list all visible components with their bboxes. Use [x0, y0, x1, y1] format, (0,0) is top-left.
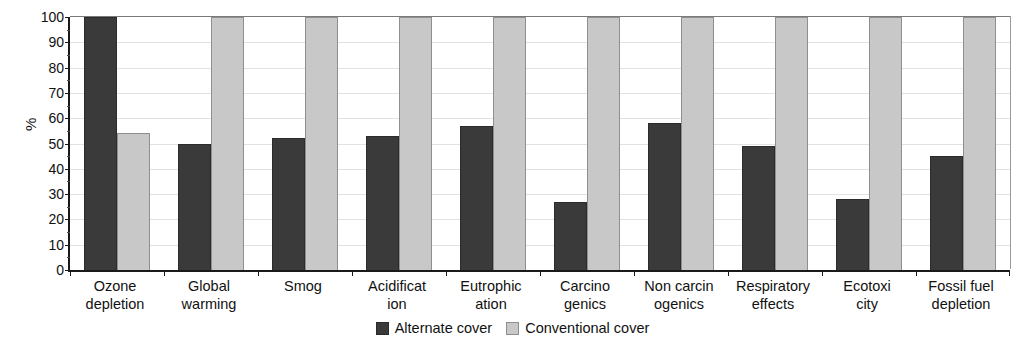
x-tick-mark: [164, 271, 165, 276]
y-minor-tick-mark: [67, 131, 70, 132]
bar-group: [352, 17, 446, 270]
x-tick-label-line1: Ozone: [94, 278, 137, 294]
x-tick-label-line1: Smog: [284, 278, 322, 294]
y-minor-tick-mark: [67, 80, 70, 81]
y-tick-mark: [65, 17, 70, 18]
legend-label: Alternate cover: [395, 320, 493, 336]
x-tick-label-line1: Non carcin: [644, 278, 713, 294]
bar: [587, 17, 620, 270]
y-minor-tick-mark: [67, 257, 70, 258]
y-minor-tick-mark: [67, 232, 70, 233]
bar-chart: % 0102030405060708090100 OzonedepletionG…: [0, 0, 1025, 344]
bar: [836, 199, 869, 270]
y-tick-label: 0: [6, 263, 64, 277]
y-minor-tick-mark: [67, 106, 70, 107]
plot-frame-right: [1010, 16, 1011, 269]
y-tick-mark: [65, 219, 70, 220]
bar: [178, 144, 211, 271]
y-tick-mark: [65, 68, 70, 69]
x-tick-label: Carcinogenics: [538, 277, 632, 313]
x-tick-label-line2: ion: [350, 295, 444, 313]
y-tick-mark: [65, 270, 70, 271]
x-tick-label-line1: Eutrophic: [460, 278, 521, 294]
x-tick-label-line1: Carcino: [560, 278, 610, 294]
x-tick-label-line2: genics: [538, 295, 632, 313]
bar-group: [446, 17, 540, 270]
x-tick-label-line1: Global: [188, 278, 230, 294]
x-tick-label: Fossil fueldepletion: [914, 277, 1008, 313]
y-tick-label: 60: [6, 111, 64, 125]
y-minor-tick-mark: [67, 156, 70, 157]
x-tick-label: Respiratoryeffects: [726, 277, 820, 313]
legend-swatch-icon: [376, 322, 389, 335]
x-tick-label: Non carcinogenics: [632, 277, 726, 313]
legend-item[interactable]: Conventional cover: [506, 320, 649, 336]
bar-group: [728, 17, 822, 270]
legend-item[interactable]: Alternate cover: [376, 320, 493, 336]
bar-group: [540, 17, 634, 270]
x-tick-label-line2: warming: [162, 295, 256, 313]
x-tick-mark: [1009, 271, 1010, 276]
y-tick-label: 100: [6, 10, 64, 24]
bar-group: [634, 17, 728, 270]
y-tick-label: 50: [6, 137, 64, 151]
x-tick-label-line2: effects: [726, 295, 820, 313]
legend-swatch-icon: [506, 322, 519, 335]
y-minor-tick-mark: [67, 207, 70, 208]
bar-group: [70, 17, 164, 270]
bar-group: [916, 17, 1010, 270]
bar: [963, 17, 996, 270]
bar: [869, 17, 902, 270]
x-tick-label: Ozonedepletion: [68, 277, 162, 313]
y-tick-label: 10: [6, 238, 64, 252]
x-tick-label-line2: ogenics: [632, 295, 726, 313]
y-tick-label: 20: [6, 212, 64, 226]
bar: [648, 123, 681, 270]
y-tick-label: 90: [6, 35, 64, 49]
y-minor-tick-mark: [67, 30, 70, 31]
bar: [493, 17, 526, 270]
x-tick-label-line2: ation: [444, 295, 538, 313]
y-tick-label: 40: [6, 162, 64, 176]
x-tick-label-line1: Fossil fuel: [928, 278, 993, 294]
x-tick-label-line1: Ecotoxi: [843, 278, 891, 294]
x-tick-label: Ecotoxicity: [820, 277, 914, 313]
chart-legend: Alternate coverConventional cover: [0, 320, 1025, 336]
bar: [211, 17, 244, 270]
bar-group: [822, 17, 916, 270]
x-tick-mark: [352, 271, 353, 276]
bar: [742, 146, 775, 270]
x-tick-label: Globalwarming: [162, 277, 256, 313]
y-axis-tick-labels: 0102030405060708090100: [0, 0, 64, 344]
bar-group: [164, 17, 258, 270]
x-tick-mark: [916, 271, 917, 276]
x-tick-mark: [258, 271, 259, 276]
y-minor-tick-mark: [67, 181, 70, 182]
x-tick-label: Smog: [256, 277, 350, 313]
y-minor-tick-mark: [67, 55, 70, 56]
x-tick-mark: [634, 271, 635, 276]
x-tick-mark: [728, 271, 729, 276]
y-tick-mark: [65, 93, 70, 94]
y-tick-label: 80: [6, 61, 64, 75]
bar-group: [258, 17, 352, 270]
bar: [84, 17, 117, 270]
bar: [775, 17, 808, 270]
x-tick-mark: [540, 271, 541, 276]
bar: [305, 17, 338, 270]
bar: [117, 133, 150, 270]
y-tick-mark: [65, 245, 70, 246]
y-tick-mark: [65, 42, 70, 43]
x-axis-tick-labels: OzonedepletionGlobalwarmingSmogAcidifica…: [68, 277, 1008, 313]
y-tick-label: 70: [6, 86, 64, 100]
bar: [399, 17, 432, 270]
x-tick-label-line1: Acidificat: [368, 278, 426, 294]
bar: [272, 138, 305, 270]
bar: [681, 17, 714, 270]
y-tick-mark: [65, 118, 70, 119]
x-tick-label-line1: Respiratory: [736, 278, 810, 294]
x-tick-label-line2: depletion: [68, 295, 162, 313]
legend-label: Conventional cover: [525, 320, 649, 336]
x-tick-label: Acidification: [350, 277, 444, 313]
plot-area: [68, 17, 1010, 272]
